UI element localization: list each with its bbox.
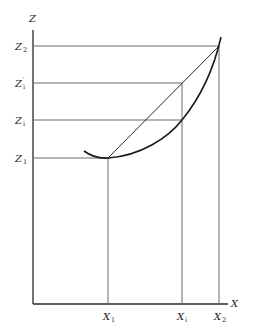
svg-text:1: 1: [111, 316, 115, 324]
svg-text:2: 2: [23, 46, 27, 54]
svg-text:X: X: [213, 311, 222, 322]
zi-label: Z i: [14, 115, 25, 128]
convex-curve: [84, 37, 221, 158]
svg-text:Z: Z: [14, 153, 23, 164]
svg-text:i: i: [185, 316, 187, 324]
z2-label: Z 2: [14, 41, 27, 54]
x2-label: X 2: [213, 311, 226, 324]
z-axis-label: Z: [28, 13, 37, 24]
chord-line: [108, 46, 219, 158]
convex-function-diagram: Z X Z 2 Z ′ i Z i Z 1 X 1 X i X 2: [0, 0, 254, 335]
svg-text:X: X: [102, 311, 111, 322]
svg-text:Z: Z: [14, 115, 23, 126]
zi-prime-label: Z ′ i: [14, 76, 25, 91]
svg-text:1: 1: [23, 158, 27, 166]
svg-text:i: i: [23, 83, 25, 91]
z1-label: Z 1: [14, 153, 27, 166]
svg-text:2: 2: [222, 316, 226, 324]
svg-text:Z: Z: [14, 41, 23, 52]
svg-text:i: i: [23, 120, 25, 128]
svg-text:X: X: [176, 311, 185, 322]
x1-label: X 1: [102, 311, 115, 324]
svg-text:Z: Z: [14, 78, 23, 89]
x-axis-label: X: [230, 298, 239, 309]
xi-label: X i: [176, 311, 187, 324]
